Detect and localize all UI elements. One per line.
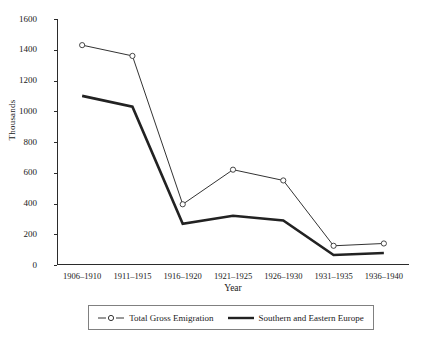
y-tick-label: 0 <box>0 261 37 270</box>
data-point-marker <box>381 241 386 246</box>
data-point-marker <box>331 243 336 248</box>
data-point-marker <box>180 202 185 207</box>
x-axis-title: Year <box>57 283 409 293</box>
x-tick-label: 1936–1940 <box>349 271 419 281</box>
y-tick-label: 200 <box>0 230 37 239</box>
y-tick-mark <box>54 265 57 266</box>
chart-legend: Total Gross Emigration Southern and East… <box>88 305 374 330</box>
chart-figure: Thousands 02004006008001000120014001600 … <box>0 0 425 345</box>
legend-label-0: Total Gross Emigration <box>129 313 213 323</box>
data-point-marker <box>281 178 286 183</box>
data-point-marker <box>230 167 235 172</box>
legend-label-1: Southern and Eastern Europe <box>259 313 364 323</box>
y-tick-label: 1000 <box>0 107 37 116</box>
y-axis-title: Thousands <box>7 70 17 170</box>
data-point-marker <box>80 43 85 48</box>
legend-marker-thick-line-icon <box>228 313 254 323</box>
y-tick-label: 1600 <box>0 15 37 24</box>
y-tick-label: 400 <box>0 199 37 208</box>
y-tick-label: 600 <box>0 168 37 177</box>
legend-item-southern-and-eastern-europe: Southern and Eastern Europe <box>228 313 364 323</box>
legend-marker-line-circle-icon <box>98 313 124 323</box>
y-tick-label: 1200 <box>0 76 37 85</box>
series-line <box>82 96 384 255</box>
y-tick-label: 1400 <box>0 45 37 54</box>
data-point-marker <box>130 53 135 58</box>
legend-item-total-gross-emigration: Total Gross Emigration <box>98 313 213 323</box>
plot-area: 02004006008001000120014001600 1906–19101… <box>57 19 409 265</box>
series-lines <box>57 19 409 265</box>
y-tick-label: 800 <box>0 138 37 147</box>
